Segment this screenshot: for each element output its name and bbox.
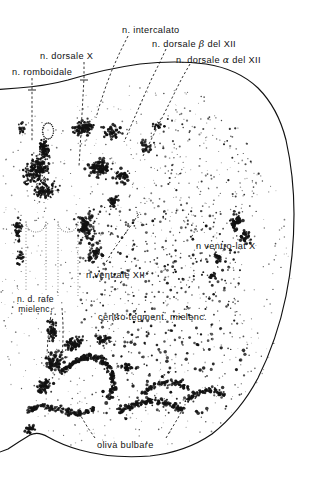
label-oliva-bulbare: oliva bulbare	[97, 441, 154, 450]
anatomical-figure: n. intercalato n. dorsale β del XII n. d…	[0, 0, 311, 477]
label-n-intercalato: n. intercalato	[122, 26, 180, 35]
leader-intercalato	[96, 36, 128, 118]
label-n-ventro-lat-x: n ventro-lat X	[196, 242, 256, 251]
leader-dorsale-x	[79, 62, 84, 166]
stipple-layer	[0, 85, 291, 445]
label-n-d-rafe-mielenc: n. d. rafe mielenc.	[17, 295, 54, 315]
label-n-romboidale: n. romboidale	[12, 68, 72, 77]
leader-rafe-b	[62, 308, 63, 356]
label-text-pre: n. dorsale	[152, 39, 199, 49]
label-text-post: del XII	[205, 39, 236, 49]
leader-oliva-right	[166, 410, 182, 438]
label-text-post: del XII	[229, 55, 260, 65]
leader-dorsale-alpha	[143, 64, 190, 156]
label-n-dorsale-beta-xii: n. dorsale β del XII	[152, 39, 236, 49]
label-centro-tegment-mielenc: centro tegment. mielenc.	[98, 313, 207, 322]
label-line-2: mielenc.	[17, 305, 54, 315]
label-n-dorsale-alpha-xii: n. dorsale α del XII	[176, 55, 261, 65]
leader-ticks	[28, 80, 88, 90]
label-n-dorsale-x: n. dorsale X	[40, 52, 93, 61]
label-n-ventrale-xii: n ventrale XII	[86, 271, 145, 280]
leader-oliva-left	[78, 410, 95, 438]
label-text-pre: n. dorsale	[176, 55, 223, 65]
